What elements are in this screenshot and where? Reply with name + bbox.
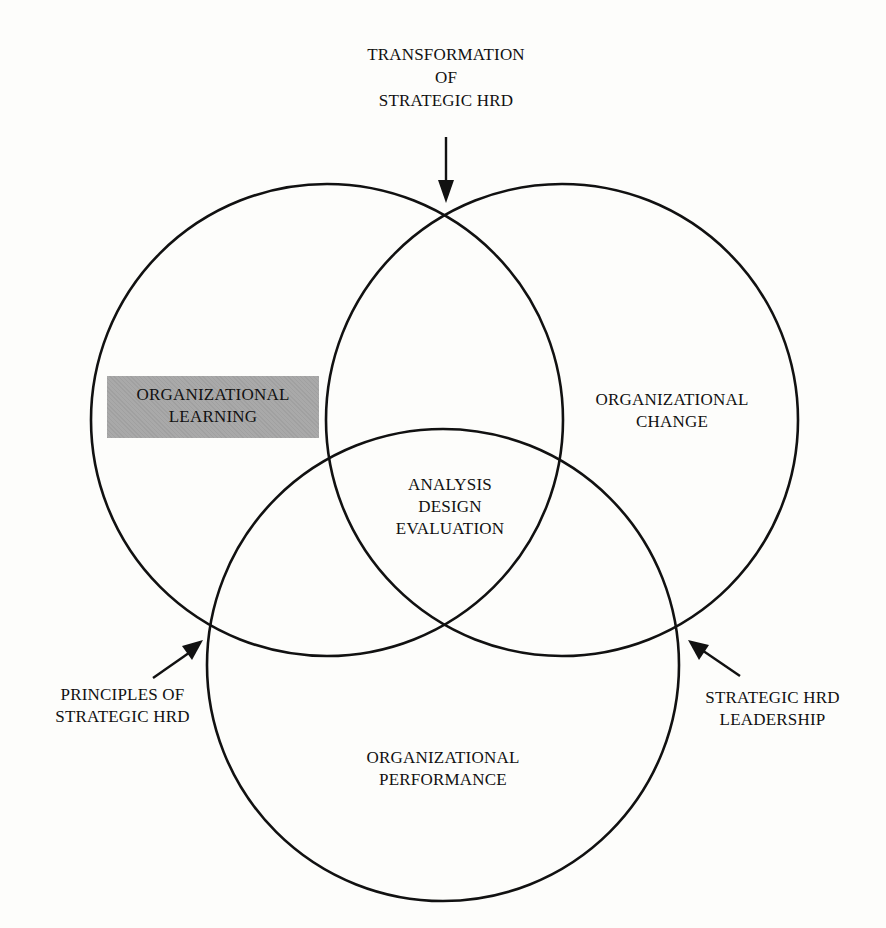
annotation-strategic-hrd-leadership: STRATEGIC HRD LEADERSHIP [680, 687, 865, 731]
annotation-principles-of-strategic-hrd: PRINCIPLES OF STRATEGIC HRD [30, 684, 215, 728]
center-label-line: EVALUATION [365, 518, 535, 540]
annotation-line: TRANSFORMATION [340, 43, 552, 66]
arrowhead-right-icon [688, 640, 709, 660]
annotation-line: STRATEGIC HRD [680, 687, 865, 709]
circle-label-line: LEARNING [107, 406, 319, 428]
circle-label-line: CHANGE [565, 411, 779, 433]
label-organizational-performance: ORGANIZATIONAL PERFORMANCE [338, 747, 548, 791]
label-organizational-learning: ORGANIZATIONAL LEARNING [107, 376, 319, 438]
circle-label-line: ORGANIZATIONAL [565, 389, 779, 411]
center-label-line: DESIGN [365, 496, 535, 518]
center-label-line: ANALYSIS [365, 474, 535, 496]
arrowhead-top-icon [438, 180, 454, 203]
annotation-line: PRINCIPLES OF [30, 684, 215, 706]
annotation-line: OF [340, 66, 552, 89]
circle-label-line: PERFORMANCE [338, 769, 548, 791]
annotation-line: LEADERSHIP [680, 709, 865, 731]
label-organizational-change: ORGANIZATIONAL CHANGE [565, 389, 779, 433]
label-center-analysis-design-evaluation: ANALYSIS DESIGN EVALUATION [365, 474, 535, 540]
annotation-transformation-of-strategic-hrd: TRANSFORMATION OF STRATEGIC HRD [340, 43, 552, 112]
annotation-line: STRATEGIC HRD [30, 706, 215, 728]
circle-label-line: ORGANIZATIONAL [338, 747, 548, 769]
annotation-line: STRATEGIC HRD [340, 89, 552, 112]
circle-label-line: ORGANIZATIONAL [107, 384, 319, 406]
